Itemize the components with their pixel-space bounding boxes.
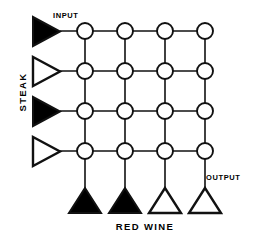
grid-node-r3c3[interactable]	[197, 143, 213, 159]
grid-node-r2c1[interactable]	[117, 103, 133, 119]
row-axis-label: STEAK	[17, 72, 28, 111]
grid-node-r1c0[interactable]	[77, 63, 93, 79]
grid-node-r1c3[interactable]	[197, 63, 213, 79]
grid-node-r0c3[interactable]	[197, 23, 213, 39]
output-triangle-1[interactable]	[109, 188, 141, 213]
grid-node-r1c1[interactable]	[117, 63, 133, 79]
grid-node-r2c0[interactable]	[77, 103, 93, 119]
input-triangle-1[interactable]	[33, 57, 60, 86]
input-units	[33, 17, 60, 166]
grid-node-r3c0[interactable]	[77, 143, 93, 159]
grid-nodes	[77, 23, 213, 159]
grid-node-r0c2[interactable]	[157, 23, 173, 39]
grid-node-r2c2[interactable]	[157, 103, 173, 119]
input-annotation-label: INPUT	[53, 11, 79, 20]
grid-node-r3c2[interactable]	[157, 143, 173, 159]
input-triangle-0[interactable]	[33, 17, 60, 46]
network-diagram: INPUT OUTPUT STEAK RED WINE	[0, 0, 257, 239]
grid-node-r2c3[interactable]	[197, 103, 213, 119]
input-triangle-2[interactable]	[33, 97, 60, 126]
output-triangle-0[interactable]	[69, 188, 101, 213]
output-triangle-3[interactable]	[189, 188, 221, 213]
output-units	[69, 188, 221, 213]
input-triangle-3[interactable]	[33, 137, 60, 166]
grid-node-r3c1[interactable]	[117, 143, 133, 159]
grid-node-r0c0[interactable]	[77, 23, 93, 39]
output-annotation-label: OUTPUT	[206, 173, 240, 182]
grid-node-r0c1[interactable]	[117, 23, 133, 39]
diagram-canvas: INPUT OUTPUT STEAK RED WINE	[0, 0, 257, 239]
grid-horizontal-lines	[60, 31, 205, 151]
output-triangle-2[interactable]	[149, 188, 181, 213]
grid-node-r1c2[interactable]	[157, 63, 173, 79]
column-axis-label: RED WINE	[116, 221, 175, 232]
